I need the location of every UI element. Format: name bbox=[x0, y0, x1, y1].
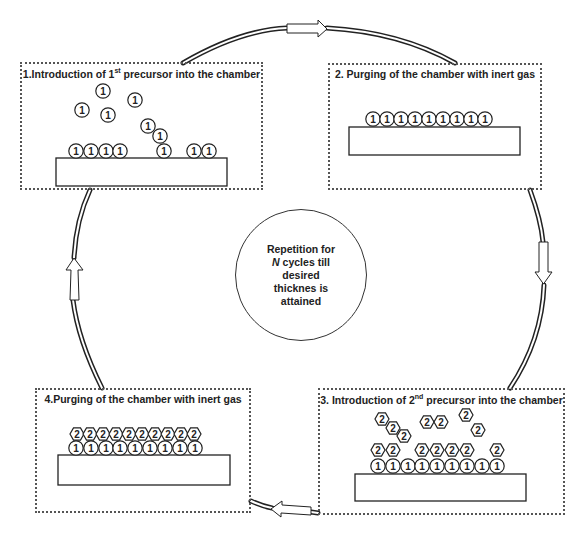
center-line-5: attained bbox=[281, 295, 321, 307]
svg-text:1: 1 bbox=[390, 461, 396, 472]
precursor-1-molecule: 1 bbox=[75, 103, 89, 117]
svg-text:1: 1 bbox=[191, 146, 197, 157]
precursor-1-molecule: 1 bbox=[450, 112, 464, 126]
precursor-2-molecule: 2 bbox=[122, 428, 136, 440]
svg-text:1: 1 bbox=[79, 105, 85, 116]
precursor-1-molecule: 1 bbox=[202, 144, 216, 158]
substrate-4 bbox=[58, 455, 230, 485]
svg-text:1: 1 bbox=[206, 146, 212, 157]
precursor-2-molecule: 2 bbox=[109, 428, 123, 440]
svg-text:2: 2 bbox=[438, 417, 444, 428]
repetition-text: Repetition for N cycles till desired thi… bbox=[256, 243, 346, 308]
precursor-1-molecule: 1 bbox=[141, 119, 155, 133]
precursor-2-molecule: 2 bbox=[135, 428, 149, 440]
svg-text:1: 1 bbox=[419, 461, 425, 472]
svg-text:2: 2 bbox=[87, 429, 93, 440]
svg-text:2: 2 bbox=[100, 429, 106, 440]
precursor-1-molecule: 1 bbox=[478, 112, 492, 126]
svg-text:1: 1 bbox=[405, 461, 411, 472]
svg-text:1: 1 bbox=[192, 443, 198, 454]
precursor-2-molecule: 2 bbox=[386, 422, 400, 434]
center-n-variable: N bbox=[272, 256, 280, 268]
precursor-1-molecule: 1 bbox=[99, 441, 113, 455]
svg-text:1: 1 bbox=[117, 146, 123, 157]
svg-text:1: 1 bbox=[468, 114, 474, 125]
precursor-1-molecule: 1 bbox=[69, 144, 83, 158]
svg-text:2: 2 bbox=[390, 445, 396, 456]
precursor-2-molecule: 2 bbox=[420, 416, 434, 428]
svg-text:1: 1 bbox=[103, 443, 109, 454]
center-line-3: desired bbox=[282, 269, 319, 281]
precursor-2-molecule: 2 bbox=[434, 416, 448, 428]
precursor-1-molecule: 1 bbox=[460, 459, 474, 473]
svg-text:2: 2 bbox=[113, 429, 119, 440]
precursor-1-molecule: 1 bbox=[371, 459, 385, 473]
svg-text:2: 2 bbox=[424, 417, 430, 428]
substrate-2 bbox=[349, 127, 520, 155]
svg-text:1: 1 bbox=[412, 114, 418, 125]
precursor-1-molecule: 1 bbox=[422, 112, 436, 126]
precursor-2-molecule: 2 bbox=[70, 428, 84, 440]
precursor-2-molecule: 2 bbox=[415, 444, 429, 456]
precursor-1-molecule: 1 bbox=[408, 112, 422, 126]
precursor-2-molecule: 2 bbox=[148, 428, 162, 440]
svg-text:1: 1 bbox=[132, 443, 138, 454]
precursor-1-molecule: 1 bbox=[143, 441, 157, 455]
precursor-1-molecule: 1 bbox=[188, 441, 202, 455]
svg-text:1: 1 bbox=[426, 114, 432, 125]
svg-text:1: 1 bbox=[454, 114, 460, 125]
precursor-2-molecule: 2 bbox=[471, 424, 485, 436]
precursor-2-molecule: 2 bbox=[445, 444, 459, 456]
precursor-1-molecule: 1 bbox=[99, 144, 113, 158]
svg-text:2: 2 bbox=[434, 445, 440, 456]
svg-text:2: 2 bbox=[165, 429, 171, 440]
svg-text:1: 1 bbox=[100, 86, 106, 97]
svg-text:1: 1 bbox=[88, 443, 94, 454]
svg-text:2: 2 bbox=[379, 414, 385, 425]
svg-text:2: 2 bbox=[419, 445, 425, 456]
precursor-2-molecule: 2 bbox=[375, 413, 389, 425]
svg-text:1: 1 bbox=[384, 114, 390, 125]
precursor-1-molecule: 1 bbox=[158, 441, 172, 455]
svg-text:1: 1 bbox=[88, 146, 94, 157]
svg-text:1: 1 bbox=[162, 443, 168, 454]
precursor-2-molecule: 2 bbox=[161, 428, 175, 440]
precursor-1-molecule: 1 bbox=[394, 112, 408, 126]
precursor-1-molecule: 1 bbox=[128, 93, 142, 107]
precursor-1-molecule: 1 bbox=[366, 112, 380, 126]
svg-text:1: 1 bbox=[434, 461, 440, 472]
svg-text:1: 1 bbox=[157, 131, 163, 142]
precursor-2-molecule: 2 bbox=[460, 444, 474, 456]
svg-text:1: 1 bbox=[464, 461, 470, 472]
svg-text:2: 2 bbox=[126, 429, 132, 440]
svg-text:1: 1 bbox=[147, 443, 153, 454]
precursor-1-molecule: 1 bbox=[187, 144, 201, 158]
precursor-1-molecule: 1 bbox=[157, 144, 171, 158]
center-line-1: Repetition for bbox=[267, 243, 335, 255]
precursor-2-molecule: 2 bbox=[490, 444, 504, 456]
svg-text:2: 2 bbox=[74, 429, 80, 440]
svg-text:1: 1 bbox=[375, 461, 381, 472]
svg-text:2: 2 bbox=[449, 445, 455, 456]
precursor-1-molecule: 1 bbox=[415, 459, 429, 473]
precursor-2-molecule: 2 bbox=[459, 409, 473, 421]
svg-text:2: 2 bbox=[178, 429, 184, 440]
precursor-2-molecule: 2 bbox=[430, 444, 444, 456]
precursor-1-molecule: 1 bbox=[113, 144, 127, 158]
precursor-1-molecule: 1 bbox=[69, 441, 83, 455]
svg-text:1: 1 bbox=[117, 443, 123, 454]
svg-text:1: 1 bbox=[440, 114, 446, 125]
precursor-1-molecule: 1 bbox=[84, 441, 98, 455]
precursor-2-molecule: 2 bbox=[397, 430, 411, 442]
svg-text:2: 2 bbox=[375, 445, 381, 456]
svg-text:2: 2 bbox=[401, 431, 407, 442]
precursor-1-molecule: 1 bbox=[430, 459, 444, 473]
precursor-1-molecule: 1 bbox=[401, 459, 415, 473]
svg-text:1: 1 bbox=[177, 443, 183, 454]
ald-cycle-diagram: 1.Introduction of 1st precursor into the… bbox=[0, 0, 581, 535]
svg-text:1: 1 bbox=[479, 461, 485, 472]
precursor-1-molecule: 1 bbox=[128, 441, 142, 455]
svg-text:1: 1 bbox=[103, 146, 109, 157]
svg-text:2: 2 bbox=[152, 429, 158, 440]
svg-text:1: 1 bbox=[73, 146, 79, 157]
